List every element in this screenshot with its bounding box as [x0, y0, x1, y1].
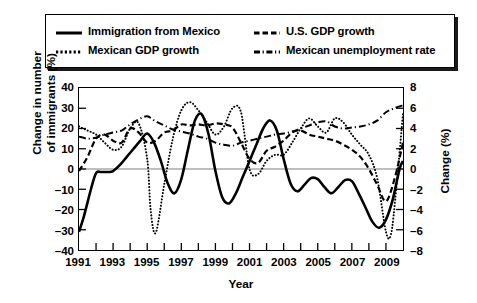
legend-label: Mexican GDP growth	[88, 44, 199, 56]
legend-item-us-gdp-growth: U.S. GDP growth	[254, 21, 449, 40]
x-axis-title: Year	[78, 277, 404, 291]
y-axis-right-tick-label: –8	[410, 245, 436, 257]
legend-item-mexican-unemployment-rate: Mexican unemployment rate	[254, 40, 449, 59]
y-axis-right-tick-label: 8	[410, 81, 436, 93]
y-axis-right-tick-label: 6	[410, 102, 436, 114]
y-axis-left-tick-label: –20	[44, 204, 74, 216]
x-axis-tick-label: 1997	[168, 256, 194, 268]
y-axis-right-tick-label: –2	[410, 184, 436, 196]
legend-swatch-dashed-icon	[254, 25, 280, 37]
y-axis-left-tick-label: 10	[44, 143, 74, 155]
legend-label: Mexican unemployment rate	[286, 44, 435, 56]
x-axis-tick-label: 1991	[65, 256, 91, 268]
legend-label: Immigration from Mexico	[88, 25, 220, 37]
x-axis-tick-label: 2001	[237, 256, 263, 268]
chart-legend: Immigration from Mexico Mexican GDP grow…	[45, 14, 455, 68]
x-axis-tick-labels: 1991199319951997199920012003200520072009	[78, 256, 404, 272]
series-line-immigration-from-mexico	[79, 113, 403, 231]
legend-column-right: U.S. GDP growth Mexican unemployment rat…	[254, 21, 449, 59]
y-axis-right-tick-labels: 86420–2–4–6–8	[410, 87, 436, 251]
legend-item-immigration-from-mexico: Immigration from Mexico	[56, 21, 256, 40]
legend-item-mexican-gdp-growth: Mexican GDP growth	[56, 40, 256, 59]
x-axis-tick-label: 2005	[305, 256, 331, 268]
plot-svg	[79, 88, 403, 250]
y-axis-left-tick-labels: 403020100–10–20–30–40	[44, 87, 74, 251]
series-line-u-s-gdp-growth	[79, 123, 403, 201]
x-axis-tick-label: 1993	[100, 256, 126, 268]
y-axis-left-tick-label: 40	[44, 81, 74, 93]
y-axis-left-tick-label: 30	[44, 102, 74, 114]
legend-label: U.S. GDP growth	[286, 25, 375, 37]
x-axis-tick-label: 1999	[202, 256, 228, 268]
y-axis-right-tick-label: –6	[410, 225, 436, 237]
legend-swatch-dashdot-icon	[254, 44, 280, 56]
x-axis-tick-label: 2007	[340, 256, 366, 268]
y-axis-right-tick-label: 2	[410, 143, 436, 155]
y-axis-right-tick-label: 0	[410, 163, 436, 175]
y-axis-left-tick-label: –10	[44, 184, 74, 196]
plot-area	[78, 87, 404, 251]
legend-column-left: Immigration from Mexico Mexican GDP grow…	[56, 21, 256, 59]
x-axis-tick-label: 1995	[134, 256, 160, 268]
x-axis-tick-label: 2003	[271, 256, 297, 268]
y-axis-left-tick-label: –30	[44, 225, 74, 237]
y-axis-left-title-line1: Change in number	[31, 51, 45, 155]
series-line-mexican-gdp-growth	[79, 102, 403, 239]
y-axis-right-tick-label: 4	[410, 122, 436, 134]
y-axis-right-tick-label: –4	[410, 204, 436, 216]
y-axis-right-title: Change (%)	[438, 96, 456, 226]
y-axis-left-tick-label: 20	[44, 122, 74, 134]
x-axis-tick-label: 2009	[374, 256, 400, 268]
y-axis-left-tick-label: 0	[44, 163, 74, 175]
